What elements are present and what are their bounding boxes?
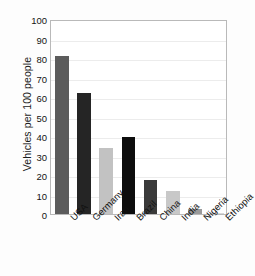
y-tick-50: 50 <box>22 112 47 123</box>
y-tick-20: 20 <box>22 171 47 182</box>
y-tick-70: 70 <box>22 73 47 84</box>
bar-chart: Vehicles per 100 people 0102030405060708… <box>0 0 255 276</box>
plot-area <box>50 20 227 215</box>
bar-germany <box>77 93 91 214</box>
x-tick-germany: Germany <box>90 215 98 223</box>
y-tick-80: 80 <box>22 54 47 65</box>
y-tick-0: 0 <box>22 210 47 221</box>
y-tick-90: 90 <box>22 34 47 45</box>
y-axis-tick-labels: 0102030405060708090100 <box>22 20 47 215</box>
y-tick-30: 30 <box>22 151 47 162</box>
y-tick-60: 60 <box>22 93 47 104</box>
x-tick-brazil: Brazil <box>134 215 142 223</box>
x-tick-india: India <box>179 215 187 223</box>
bar-brazil <box>122 137 136 214</box>
y-tick-40: 40 <box>22 132 47 143</box>
x-tick-iran: Iran <box>112 215 120 223</box>
y-tick-100: 100 <box>22 15 47 26</box>
x-axis-tick-labels: USAGermanyIranBrazilChinaIndiaNigeriaEth… <box>50 215 227 276</box>
x-tick-ethiopia: Ethiopia <box>223 215 231 223</box>
x-tick-nigeria: Nigeria <box>201 215 209 223</box>
x-tick-china: China <box>157 215 165 223</box>
bar-usa <box>55 56 69 214</box>
y-tick-10: 10 <box>22 190 47 201</box>
x-tick-usa: USA <box>68 215 76 223</box>
bar-series <box>51 21 226 214</box>
